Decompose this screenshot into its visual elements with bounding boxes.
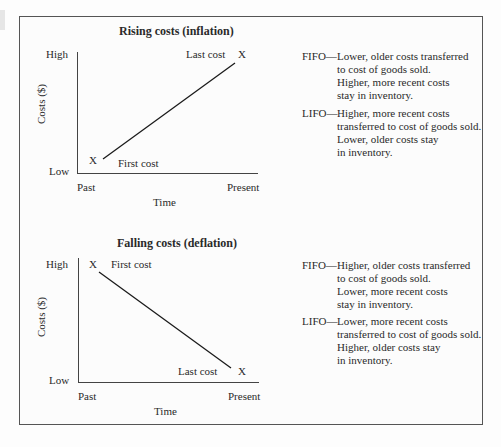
last-cost-marker: X — [238, 365, 246, 377]
first-cost-label: First cost — [111, 258, 152, 270]
note-line: Lower, more recent costs — [337, 315, 481, 328]
cost-trend-line — [99, 272, 231, 368]
first-cost-marker: X — [89, 258, 97, 270]
fifo-note: FIFO— Higher, older costs transferred to… — [302, 259, 482, 315]
last-cost-label: Last cost — [178, 365, 217, 377]
fifo-tag: FIFO— — [302, 259, 337, 272]
lifo-note: LIFO— Lower, more recent costs transferr… — [302, 315, 482, 371]
note-line: to cost of goods sold. — [337, 272, 470, 285]
note-line: Higher, older costs stay — [337, 341, 481, 354]
lifo-tag: LIFO— — [302, 315, 337, 328]
note-line: Higher, older costs transferred — [337, 259, 470, 272]
note-line: transferred to cost of goods sold. — [337, 328, 481, 341]
note-line: Lower, more recent costs — [337, 285, 470, 298]
note-line: stay in inventory. — [337, 298, 470, 311]
falling-costs-plot — [0, 0, 501, 447]
note-line: in inventory. — [337, 354, 481, 367]
